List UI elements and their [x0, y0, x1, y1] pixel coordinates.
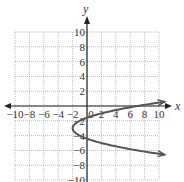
x-axis-right-arrow-icon	[165, 103, 172, 109]
y-tick-label: 2	[80, 85, 86, 97]
x-axis-label: x	[174, 99, 181, 113]
y-tick-label: 10	[74, 26, 86, 38]
x-tick-label: 8	[142, 108, 148, 120]
x-tick-label: −6	[38, 108, 50, 120]
y-axis-label: y	[82, 2, 89, 16]
y-tick-label: −6	[73, 144, 85, 156]
x-tick-label: −4	[52, 108, 64, 120]
x-tick-label: −10	[6, 108, 24, 120]
y-tick-label: 4	[80, 70, 86, 82]
tick-labels: −10−8−6−4−20246810108642−2−4−6−8−10	[6, 26, 165, 182]
y-axis-up-arrow-icon	[84, 16, 90, 24]
y-tick-label: 6	[80, 56, 86, 68]
x-tick-label: 10	[154, 108, 166, 120]
y-tick-label: −10	[68, 174, 86, 182]
x-tick-label: 6	[127, 108, 133, 120]
x-tick-label: −8	[24, 108, 36, 120]
graph: −10−8−6−4−20246810108642−2−4−6−8−10 x y	[0, 0, 184, 182]
y-tick-label: 8	[80, 41, 86, 53]
x-tick-label: 0	[88, 108, 94, 120]
y-tick-label: −8	[73, 159, 85, 171]
